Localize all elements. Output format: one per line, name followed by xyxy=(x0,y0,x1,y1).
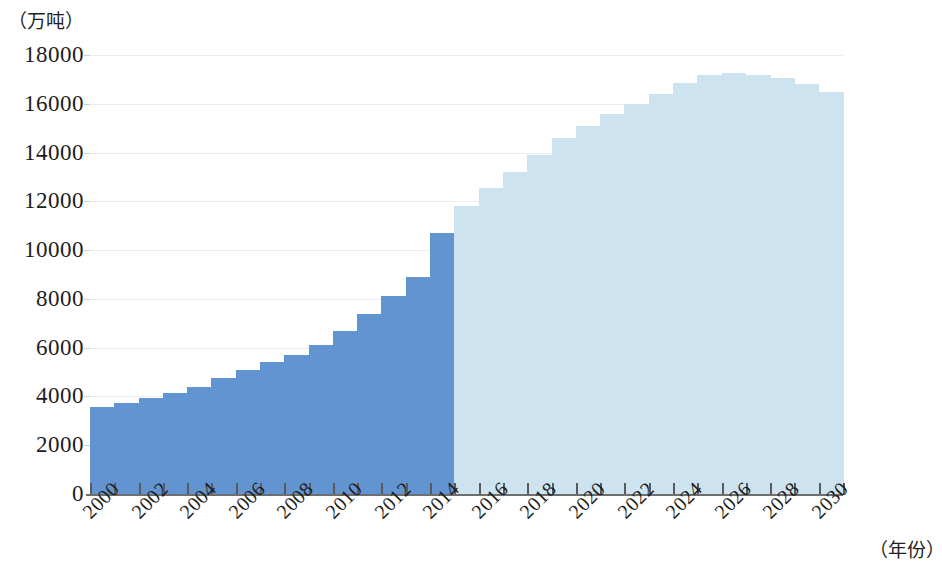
y-axis-tick-label: 12000 xyxy=(0,188,84,214)
bar-2004 xyxy=(187,387,212,494)
bar-2011 xyxy=(357,314,382,494)
y-axis-tick-label: 0 xyxy=(0,481,84,507)
bar-2028 xyxy=(770,78,795,494)
bar-2008 xyxy=(284,355,309,494)
bar-2013 xyxy=(406,277,431,494)
y-axis-tick-label: 18000 xyxy=(0,42,84,68)
bar-2022 xyxy=(624,104,649,494)
bar-2029 xyxy=(794,84,819,494)
y-axis-tick-label: 16000 xyxy=(0,91,84,117)
bar-2027 xyxy=(746,75,771,494)
x-axis-unit-label: （年份） xyxy=(869,535,942,562)
bar-2025 xyxy=(697,75,722,494)
bar-2020 xyxy=(576,126,601,494)
bar-2014 xyxy=(430,233,455,494)
bar-2005 xyxy=(211,378,236,494)
bar-2019 xyxy=(552,138,577,494)
bar-2021 xyxy=(600,114,625,494)
bar-2001 xyxy=(114,403,139,494)
y-axis-tick-labels: 0200040006000800010000120001400016000180… xyxy=(0,0,84,563)
bar-2012 xyxy=(381,296,406,494)
y-axis-tick-label: 8000 xyxy=(0,286,84,312)
bar-2003 xyxy=(163,393,188,494)
y-axis-tick-label: 6000 xyxy=(0,335,84,361)
bar-2030 xyxy=(819,92,844,494)
bar-2006 xyxy=(236,370,261,494)
bar-2016 xyxy=(479,188,504,494)
bar-2015 xyxy=(454,206,479,494)
bar-2007 xyxy=(260,362,285,494)
bar-2026 xyxy=(722,73,747,494)
y-axis-tick-label: 10000 xyxy=(0,237,84,263)
y-axis-tick-label: 4000 xyxy=(0,383,84,409)
bar-2024 xyxy=(673,83,698,494)
bar-2010 xyxy=(333,331,358,494)
y-axis-tick-label: 2000 xyxy=(0,432,84,458)
bar-2018 xyxy=(527,155,552,494)
bar-series-group xyxy=(90,55,843,494)
bar-2009 xyxy=(309,345,334,494)
bar-2017 xyxy=(503,172,528,494)
y-axis-tick-label: 14000 xyxy=(0,140,84,166)
bar-2023 xyxy=(649,94,674,494)
bar-chart: （万吨） 02000400060008000100001200014000160… xyxy=(0,0,942,563)
plot-area xyxy=(90,55,843,494)
